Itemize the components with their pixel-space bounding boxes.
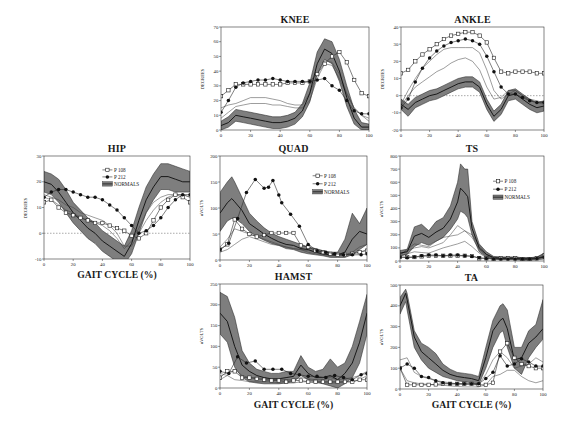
open-square-marker bbox=[405, 383, 408, 386]
open-square-marker bbox=[137, 237, 140, 240]
filled-circle-marker bbox=[360, 112, 364, 116]
legend-entry-p-212: P 212 bbox=[493, 186, 517, 192]
open-square-marker bbox=[513, 356, 516, 359]
legend-label: NORMALS bbox=[114, 181, 139, 187]
x-tick-label: 0 bbox=[220, 133, 223, 138]
filled-circle-marker bbox=[254, 359, 258, 363]
filled-circle-marker bbox=[528, 99, 532, 103]
open-square-marker bbox=[484, 383, 487, 386]
filled-circle-marker bbox=[471, 39, 475, 43]
normals-band bbox=[400, 289, 543, 385]
y-tick-label: 500 bbox=[390, 193, 398, 198]
open-square-marker bbox=[106, 168, 109, 171]
y-tick-label: 0 bbox=[216, 128, 219, 133]
y-tick-label: 30 bbox=[37, 154, 42, 159]
filled-circle-marker bbox=[236, 217, 240, 221]
filled-circle-marker bbox=[448, 382, 452, 386]
open-square-marker bbox=[528, 70, 531, 73]
open-square-marker bbox=[234, 83, 237, 86]
y-tick-label: 300 bbox=[390, 219, 398, 224]
filled-circle-marker bbox=[245, 191, 249, 195]
x-tick-label: 60 bbox=[129, 262, 134, 267]
y-tick-label: 40 bbox=[214, 69, 219, 74]
filled-circle-marker bbox=[435, 49, 439, 53]
x-tick-label: 60 bbox=[306, 263, 311, 268]
open-square-marker bbox=[442, 37, 445, 40]
open-square-marker bbox=[316, 72, 319, 75]
filled-circle-marker bbox=[271, 368, 275, 372]
filled-circle-marker bbox=[227, 242, 231, 246]
hamst-plot-area bbox=[218, 292, 369, 388]
filled-circle-marker bbox=[181, 193, 185, 197]
open-square-marker bbox=[336, 380, 339, 383]
y-tick-label: 200 bbox=[210, 154, 218, 159]
open-square-marker bbox=[270, 379, 273, 382]
filled-circle-marker bbox=[455, 382, 459, 386]
x-tick-label: 60 bbox=[483, 392, 488, 397]
open-square-marker bbox=[435, 42, 438, 45]
open-square-marker bbox=[449, 34, 452, 37]
filled-circle-marker bbox=[245, 361, 249, 365]
y-tick-label: 0 bbox=[215, 386, 218, 391]
ankle-y-axis: -20-10010203040 bbox=[392, 25, 401, 133]
x-tick-label: 40 bbox=[455, 392, 460, 397]
ts-chart: 0100200300400500600700800020406080100P 1… bbox=[390, 154, 548, 270]
filled-circle-marker bbox=[306, 243, 310, 247]
open-square-marker bbox=[227, 89, 230, 92]
filled-circle-marker bbox=[449, 253, 453, 257]
y-tick-label: 0 bbox=[396, 93, 399, 98]
open-square-marker bbox=[521, 70, 524, 73]
filled-circle-marker bbox=[506, 257, 510, 261]
open-square-marker bbox=[86, 219, 89, 222]
open-square-marker bbox=[307, 380, 310, 383]
legend-label: P 108 bbox=[114, 167, 126, 173]
y-tick-label: 250 bbox=[210, 282, 218, 287]
legend-label: P 212 bbox=[505, 186, 517, 192]
open-square-marker bbox=[255, 235, 258, 238]
filled-circle-marker bbox=[166, 206, 170, 210]
y-tick-label: 200 bbox=[210, 302, 218, 307]
x-tick-label: 40 bbox=[276, 263, 281, 268]
ankle-chart: -20-10010203040020406080100 bbox=[392, 25, 548, 139]
filled-circle-marker bbox=[499, 257, 503, 261]
filled-circle-marker bbox=[527, 360, 531, 364]
filled-circle-marker bbox=[441, 381, 445, 385]
quad-x-axis: 020406080100 bbox=[219, 260, 371, 268]
y-tick-label: 70 bbox=[214, 25, 219, 30]
y-tick-label: 400 bbox=[390, 206, 398, 211]
open-square-marker bbox=[345, 61, 348, 64]
open-square-marker bbox=[299, 244, 302, 247]
open-square-marker bbox=[174, 193, 177, 196]
x-tick-label: 80 bbox=[337, 133, 342, 138]
open-square-marker bbox=[413, 383, 416, 386]
y-tick-label: 50 bbox=[213, 232, 218, 237]
filled-circle-marker bbox=[484, 377, 488, 381]
filled-circle-marker bbox=[330, 84, 334, 88]
legend-label: P 108 bbox=[505, 178, 517, 184]
filled-circle-marker bbox=[93, 195, 97, 199]
open-square-marker bbox=[284, 380, 287, 383]
open-square-marker bbox=[520, 362, 523, 365]
open-square-marker bbox=[527, 364, 530, 367]
x-tick-label: 60 bbox=[307, 133, 312, 138]
open-square-marker bbox=[471, 30, 474, 33]
filled-circle-marker bbox=[308, 80, 312, 84]
y-tick-label: 200 bbox=[390, 232, 398, 237]
y-tick-label: 10 bbox=[37, 205, 42, 210]
filled-circle-marker bbox=[315, 375, 319, 379]
filled-circle-marker bbox=[413, 255, 417, 259]
filled-circle-marker bbox=[507, 92, 511, 96]
filled-circle-marker bbox=[514, 92, 518, 96]
filled-circle-marker bbox=[236, 355, 240, 359]
y-tick-label: 100 bbox=[210, 206, 218, 211]
y-tick-label: 200 bbox=[390, 345, 398, 350]
filled-circle-marker bbox=[535, 101, 539, 105]
y-tick-label: 20 bbox=[394, 59, 399, 64]
legend-label: NORMALS bbox=[505, 194, 530, 200]
filled-circle-marker bbox=[234, 86, 238, 90]
filled-circle-marker bbox=[289, 212, 293, 216]
open-square-marker bbox=[414, 60, 417, 63]
knee-y-axis: 010203040506070 bbox=[214, 25, 221, 133]
y-tick-label: 50 bbox=[213, 365, 218, 370]
open-square-marker bbox=[101, 221, 104, 224]
